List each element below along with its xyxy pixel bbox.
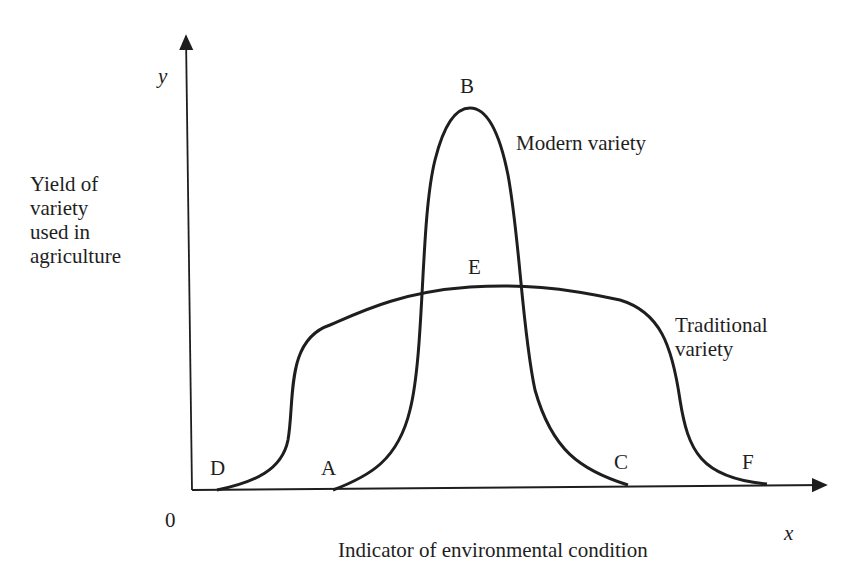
point-label-d: D [210, 458, 225, 479]
traditional-variety-label: Traditional variety [675, 313, 768, 361]
point-label-e: E [468, 257, 481, 278]
y-axis-label-line: used in [30, 220, 121, 244]
y-axis-label-line: agriculture [30, 244, 121, 268]
origin-label: 0 [165, 510, 176, 531]
y-axis-symbol: y [158, 66, 167, 87]
y-axis-label-line: variety [30, 196, 121, 220]
y-axis-label: Yield of variety used in agriculture [30, 172, 121, 268]
x-axis-symbol: x [784, 523, 793, 544]
point-label-f: F [742, 452, 754, 473]
traditional-variety-label-line: Traditional [675, 313, 768, 337]
point-label-c: C [614, 452, 628, 473]
modern-variety-curve [333, 108, 628, 490]
y-axis [186, 36, 192, 490]
traditional-variety-label-line: variety [675, 337, 768, 361]
yield-diagram [0, 0, 856, 580]
y-axis-label-line: Yield of [30, 172, 121, 196]
point-label-a: A [321, 458, 336, 479]
modern-variety-label: Modern variety [516, 133, 646, 154]
x-axis [192, 485, 826, 490]
point-label-b: B [460, 76, 474, 97]
x-axis-label: Indicator of environmental condition [338, 540, 648, 561]
